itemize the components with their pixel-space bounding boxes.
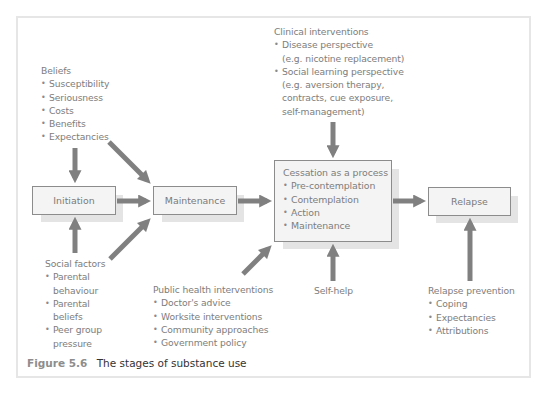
social-item: Parental behaviour [45, 270, 105, 297]
self-help-label: Self-help [314, 285, 353, 296]
figure-label: Figure 5.6 [27, 357, 87, 369]
public-health-title: Public health interventions [153, 283, 273, 296]
relapse-label: Relapse [451, 196, 488, 207]
clinical-item: Disease perspective (e.g. nicotine repla… [274, 38, 404, 65]
beliefs-item: Costs [41, 104, 109, 117]
public-health-item: Doctor's advice [153, 296, 273, 309]
relapse-prevention-item: Expectancies [428, 311, 515, 324]
figure-title: The stages of substance use [97, 357, 247, 369]
maintenance-label: Maintenance [165, 195, 225, 206]
social-item: Parental beliefs [45, 297, 105, 324]
cessation-item: Maintenance [283, 219, 391, 232]
public-health-item: Government policy [153, 336, 273, 349]
cessation-title: Cessation as a process [283, 166, 391, 179]
beliefs-text: Beliefs Susceptibility Seriousness Costs… [41, 64, 109, 144]
initiation-box: Initiation [32, 186, 116, 215]
cessation-item: Contemplation [283, 193, 391, 206]
maintenance-box: Maintenance [153, 186, 237, 215]
beliefs-item: Benefits [41, 117, 109, 130]
public-health-item: Worksite interventions [153, 310, 273, 323]
clinical-interventions-title: Clinical interventions [274, 25, 404, 38]
figure-caption: Figure 5.6 The stages of substance use [27, 357, 247, 369]
social-factors-text: Social factors Parental behaviour Parent… [45, 257, 105, 350]
public-health-item: Community approaches [153, 323, 273, 336]
beliefs-title: Beliefs [41, 64, 109, 77]
relapse-prevention-item: Attributions [428, 324, 515, 337]
relapse-box: Relapse [428, 187, 511, 216]
cessation-item: Pre-contemplation [283, 179, 391, 192]
beliefs-item: Susceptibility [41, 77, 109, 90]
social-item: Peer group pressure [45, 323, 105, 350]
beliefs-item: Seriousness [41, 91, 109, 104]
self-help-text: Self-help [314, 284, 353, 297]
initiation-label: Initiation [53, 195, 94, 206]
relapse-prevention-item: Coping [428, 297, 515, 310]
cessation-item: Action [283, 206, 391, 219]
relapse-prevention-text: Relapse prevention Coping Expectancies A… [428, 284, 515, 337]
cessation-box: Cessation as a process Pre-contemplation… [274, 160, 392, 242]
clinical-interventions-text: Clinical interventions Disease perspecti… [274, 25, 404, 118]
cessation-content: Cessation as a process Pre-contemplation… [283, 166, 391, 232]
clinical-item: Social learning perspective (e.g. aversi… [274, 65, 404, 118]
beliefs-item: Expectancies [41, 130, 109, 143]
relapse-prevention-title: Relapse prevention [428, 284, 515, 297]
social-factors-title: Social factors [45, 257, 105, 270]
public-health-text: Public health interventions Doctor's adv… [153, 283, 273, 349]
